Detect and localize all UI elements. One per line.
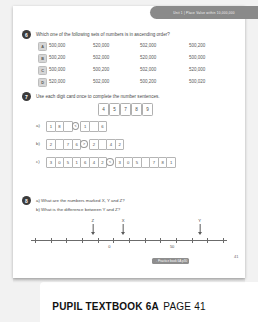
operator-cell: < bbox=[106, 157, 114, 166]
number-line-tick-label: 0 bbox=[108, 244, 110, 249]
option-value: 500,200 bbox=[49, 55, 65, 60]
digit-box-filled[interactable]: 6 bbox=[98, 121, 108, 132]
sentence-label: a) bbox=[36, 123, 40, 128]
number-line-tick bbox=[51, 238, 52, 244]
option-row[interactable]: A500,000520,000502,000500,200 bbox=[38, 42, 238, 50]
option-value: 502,000 bbox=[140, 67, 156, 72]
option-row[interactable]: B500,200502,000520,000500,000 bbox=[38, 54, 238, 62]
question-8-part-b: b) What is the difference between Y and … bbox=[36, 207, 120, 212]
digit-card[interactable]: 5 bbox=[109, 103, 120, 116]
question-7-number: 7 bbox=[22, 92, 31, 101]
number-line-marker: X bbox=[118, 218, 128, 240]
digit-card[interactable]: 7 bbox=[120, 103, 131, 116]
page-shadow bbox=[13, 278, 245, 283]
option-row[interactable]: D520,000502,000500,200500,020 bbox=[38, 78, 238, 86]
sentence-label: b) bbox=[36, 141, 40, 146]
question-6-number: 6 bbox=[22, 30, 31, 39]
page-content: 6 Which one of the following sets of num… bbox=[13, 6, 245, 278]
option-value: 520,000 bbox=[189, 67, 205, 72]
number-line-marker-label: Y bbox=[198, 218, 201, 223]
number-line-tick bbox=[35, 238, 36, 244]
option-value: 500,200 bbox=[93, 67, 109, 72]
option-value: 500,000 bbox=[189, 55, 205, 60]
unit-banner: Unit 1 | Place Value within 10,000,000 bbox=[150, 6, 258, 19]
number-line-tick bbox=[113, 238, 114, 244]
number-line-tick bbox=[145, 238, 146, 244]
number-line-marker: Y bbox=[195, 218, 205, 240]
comparison-operator: > bbox=[80, 140, 88, 148]
question-8-number: 8 bbox=[22, 196, 31, 205]
number-line-tick bbox=[207, 238, 208, 244]
option-value: 500,000 bbox=[49, 43, 65, 48]
option-row[interactable]: C500,000500,200502,000520,000 bbox=[38, 66, 238, 74]
option-value: 500,000 bbox=[49, 67, 65, 72]
page-number: 41 bbox=[234, 254, 238, 259]
number-line-tick bbox=[82, 238, 83, 244]
number-line-tick bbox=[192, 238, 193, 244]
number-line: 050ZXY bbox=[31, 218, 227, 258]
number-line-tick bbox=[160, 238, 161, 244]
option-badge: D bbox=[38, 78, 47, 87]
operator-cell: > bbox=[80, 139, 88, 148]
option-badge: B bbox=[38, 54, 47, 63]
option-value: 500,200 bbox=[189, 43, 205, 48]
operator-cell: < bbox=[72, 121, 80, 130]
marker-arrowhead bbox=[121, 232, 125, 235]
number-line-tick bbox=[66, 238, 67, 244]
caption-page: PAGE 41 bbox=[163, 301, 205, 312]
number-line-tick bbox=[129, 238, 130, 244]
textbook-page: 6 Which one of the following sets of num… bbox=[13, 6, 245, 278]
option-value: 500,200 bbox=[140, 79, 156, 84]
marker-arrowhead bbox=[198, 232, 202, 235]
option-value: 502,000 bbox=[93, 55, 109, 60]
slide-canvas: 6 Which one of the following sets of num… bbox=[0, 0, 258, 322]
slide-caption: PUPIL TEXTBOOK 6A PAGE 41 bbox=[0, 296, 258, 314]
comparison-operator: < bbox=[106, 158, 114, 166]
digit-card[interactable]: 9 bbox=[142, 103, 153, 116]
option-value: 500,020 bbox=[189, 79, 205, 84]
unit-banner-label: Unit 1 | Place Value within 10,000,000 bbox=[173, 11, 235, 15]
digit-box-filled[interactable]: 1 bbox=[166, 157, 176, 168]
number-line-marker-label: Z bbox=[91, 218, 94, 223]
number-line-marker-label: X bbox=[122, 218, 125, 223]
option-badge: A bbox=[38, 42, 47, 51]
digit-card[interactable]: 8 bbox=[131, 103, 142, 116]
question-7-prompt: Use each digit card once to complete the… bbox=[36, 94, 160, 99]
option-value: 502,000 bbox=[93, 79, 109, 84]
caption-book-title: PUPIL TEXTBOOK 6A bbox=[52, 301, 159, 312]
option-value: 520,000 bbox=[140, 55, 156, 60]
number-line-tick bbox=[176, 238, 177, 244]
digit-box-filled[interactable]: 2 bbox=[115, 139, 125, 150]
marker-arrowhead bbox=[91, 232, 95, 235]
option-value: 520,000 bbox=[93, 43, 109, 48]
number-line-marker: Z bbox=[88, 218, 98, 240]
digit-card[interactable]: 4 bbox=[98, 103, 109, 116]
option-value: 520,000 bbox=[49, 79, 65, 84]
practice-book-label: → Practice book 6A p30 bbox=[154, 259, 187, 263]
comparison-operator: < bbox=[72, 122, 80, 130]
number-line-tick-label: 50 bbox=[170, 244, 174, 249]
sentence-label: c) bbox=[36, 159, 40, 164]
question-6-prompt: Which one of the following sets of numbe… bbox=[36, 32, 170, 37]
number-line-tick bbox=[98, 238, 99, 244]
option-badge: C bbox=[38, 66, 47, 75]
option-value: 502,000 bbox=[140, 43, 156, 48]
question-8-part-a: a) What are the numbers marked X, Y and … bbox=[36, 198, 125, 203]
practice-book-pill: → Practice book 6A p30 bbox=[152, 258, 189, 264]
number-line-tick bbox=[223, 238, 224, 244]
